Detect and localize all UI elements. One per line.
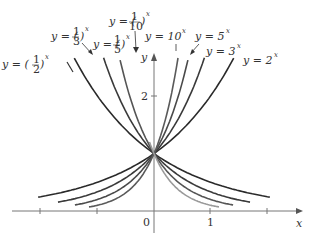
- svg-text:y = 2: y = 2: [242, 54, 272, 67]
- series-labels: y = ( 1 2 ) x y = ( 1 3 ) x y = ( 1 5 ) …: [1, 10, 278, 76]
- svg-text:x: x: [146, 10, 150, 18]
- svg-text:x: x: [226, 27, 230, 35]
- svg-text:y = 5: y = 5: [194, 30, 224, 43]
- y-axis-label: y: [140, 51, 148, 64]
- y-tick-label-2: 2: [141, 90, 148, 103]
- svg-text:x: x: [126, 33, 130, 41]
- svg-text:x: x: [274, 51, 278, 59]
- svg-text:y = 10: y = 10: [144, 30, 181, 43]
- svg-text:x: x: [237, 42, 241, 50]
- x-axis-label: x: [296, 217, 303, 230]
- svg-text:): ): [120, 38, 125, 51]
- x-tick-label-0: 0: [143, 216, 150, 229]
- exponential-functions-chart: 0 1 2 x y y = ( 1 2 ) x y = ( 1 3 ) x y …: [0, 0, 311, 243]
- curve-y-1-10-x: [150, 142, 220, 207]
- x-axis-arrow-icon: [296, 208, 303, 214]
- svg-text:): ): [140, 15, 145, 28]
- svg-text:x: x: [85, 25, 89, 33]
- svg-text:x: x: [182, 27, 186, 35]
- svg-text:x: x: [45, 53, 49, 61]
- svg-text:y = 3: y = 3: [205, 45, 235, 58]
- svg-text:): ): [79, 30, 84, 43]
- x-tick-label-1: 1: [207, 216, 214, 229]
- svg-text:): ): [39, 58, 44, 71]
- svg-text:y = (: y = (: [1, 58, 29, 71]
- y-axis-arrow-icon: [151, 53, 157, 61]
